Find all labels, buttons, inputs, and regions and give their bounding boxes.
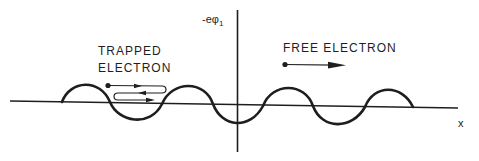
arrowhead-right-icon: [134, 84, 142, 88]
trapped-electron-label-line1: TRAPPED: [98, 44, 162, 58]
x-axis: [10, 101, 458, 108]
arrowhead-right-icon: [328, 62, 346, 69]
arrowhead-right-icon: [146, 98, 155, 102]
y-axis-label: -eφ1: [202, 13, 224, 28]
arrowhead-left-icon: [138, 91, 146, 95]
free-electron-label: FREE ELECTRON: [283, 41, 397, 55]
x-axis-label: x: [458, 117, 464, 129]
trapped-electron-label-line2: ELECTRON: [98, 61, 171, 75]
trapped-electron-path: [105, 83, 166, 102]
free-electron-path: [282, 62, 346, 69]
potential-wave-diagram: -eφ1 TRAPPED ELECTRON FREE ELECTRON x: [0, 0, 479, 161]
